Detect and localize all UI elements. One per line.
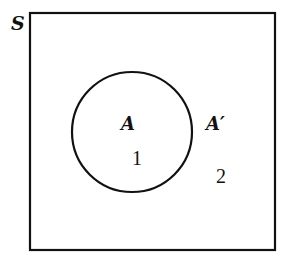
region-1-number: 1: [132, 148, 142, 168]
universe-rectangle: [30, 13, 275, 250]
universe-label: S: [11, 14, 25, 33]
complement-label: A′: [206, 115, 225, 133]
set-a-label: A: [121, 115, 135, 133]
region-2-number: 2: [216, 166, 226, 186]
venn-diagram: [0, 0, 283, 256]
